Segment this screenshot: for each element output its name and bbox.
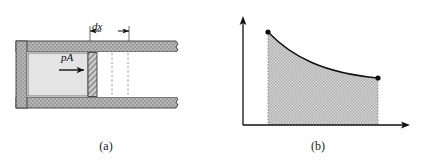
cylinder-wall-bottom: [16, 97, 178, 108]
dx-label: dx: [92, 21, 102, 32]
cylinder-wall-left-end: [16, 41, 27, 108]
state-point-2: [375, 75, 380, 80]
panel-pv-diagram: p V 1 2 V1 V2 Work = Area (b): [212, 0, 424, 166]
state-point-1: [265, 29, 270, 34]
gas-region: [28, 53, 88, 96]
force-label-pa: pA: [61, 52, 73, 63]
y-axis: [240, 16, 247, 125]
piston: [88, 53, 97, 97]
caption-a: (a): [0, 139, 212, 154]
figure-container: dx pA (a): [0, 0, 424, 166]
cylinder-wall-top: [16, 41, 178, 52]
caption-b: (b): [212, 139, 424, 154]
panel-piston-cylinder: dx pA (a): [0, 0, 212, 166]
